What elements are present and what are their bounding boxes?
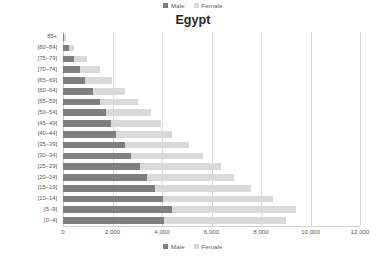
y-axis-label: [50–54] (38, 110, 57, 116)
bar-female (74, 56, 87, 63)
bar-row (63, 56, 360, 63)
male-color-swatch-bottom (163, 244, 168, 249)
legend-label-female-bottom: Female (201, 243, 222, 250)
bar-row (63, 120, 360, 127)
y-axis-label: [10–14] (38, 196, 57, 202)
y-axis-label: [35–39] (38, 142, 57, 148)
bar-female (106, 109, 151, 116)
bar-female (140, 163, 222, 170)
bar-row (63, 142, 360, 149)
x-axis-label: 8,000 (253, 229, 268, 235)
bar-female (155, 185, 252, 192)
bar-male (63, 174, 147, 181)
bar-rows (63, 32, 360, 226)
y-axis-label: [30–34] (38, 153, 57, 159)
y-axis-labels: 85+[80–84][75–79][70–74][65–69][60–64][5… (0, 32, 60, 226)
gridline-12000 (360, 32, 361, 226)
legend-item-female-top: Female (194, 2, 223, 9)
bar-female (125, 142, 189, 149)
legend-item-male-top: Male (163, 2, 184, 9)
chart-title: Egypt (0, 13, 386, 27)
bar-female (64, 34, 65, 41)
bar-row (63, 88, 360, 95)
bar-male (63, 109, 106, 116)
legend-top: Male Female (0, 2, 386, 9)
y-axis-label: [80–84] (38, 45, 57, 51)
bar-row (63, 109, 360, 116)
bar-row (63, 45, 360, 52)
bar-male (63, 120, 111, 127)
bar-male (63, 56, 74, 63)
y-axis-label: [55–59] (38, 99, 57, 105)
bar-row (63, 185, 360, 192)
female-color-swatch-bottom (194, 244, 199, 249)
bar-row (63, 131, 360, 138)
bar-male (63, 88, 93, 95)
bar-female (93, 88, 125, 95)
bar-male (63, 185, 155, 192)
x-axis-label: 10,000 (301, 229, 320, 235)
bar-male (63, 163, 140, 170)
bar-female (172, 206, 296, 213)
y-axis-label: [40–44] (38, 131, 57, 137)
bar-row (63, 196, 360, 203)
bar-male (63, 153, 131, 160)
plot-area (63, 32, 360, 226)
bar-row (63, 77, 360, 84)
bar-row (63, 163, 360, 170)
bar-female (85, 77, 112, 84)
y-axis-label: [20–24] (38, 175, 57, 181)
bar-female (164, 217, 285, 224)
population-pyramid-chart: Male Female Egypt 85+[80–84][75–79][70–7… (0, 0, 386, 257)
bar-row (63, 66, 360, 73)
bar-female (131, 153, 203, 160)
bar-female (100, 99, 138, 106)
y-axis-label: [70–74] (38, 67, 57, 73)
y-axis-label: [75–79] (38, 56, 57, 62)
bar-male (63, 66, 80, 73)
bar-female (147, 174, 234, 181)
y-axis-label: [15–19] (38, 185, 57, 191)
y-axis-label: [25–29] (38, 164, 57, 170)
x-axis-label: 4,000 (154, 229, 169, 235)
bar-female (116, 131, 172, 138)
bar-female (80, 66, 100, 73)
x-axis-label: 6,000 (204, 229, 219, 235)
legend-item-male-bottom: Male (163, 243, 184, 250)
bar-female (163, 196, 273, 203)
y-axis-label: 85+ (47, 34, 57, 40)
bar-row (63, 206, 360, 213)
bar-male (63, 206, 172, 213)
y-axis-label: [60–64] (38, 88, 57, 94)
legend-item-female-bottom: Female (194, 243, 223, 250)
legend-label-male-bottom: Male (171, 243, 185, 250)
bar-male (63, 217, 164, 224)
y-axis-label: [65–69] (38, 78, 57, 84)
female-color-swatch-top (194, 3, 199, 8)
bar-male (63, 99, 100, 106)
bar-female (69, 45, 74, 52)
x-axis-line (63, 226, 360, 227)
bar-row (63, 153, 360, 160)
bar-row (63, 34, 360, 41)
y-axis-label: [5–9] (44, 207, 57, 213)
x-axis-label: 12,000 (351, 229, 370, 235)
x-axis-labels: 02,0004,0006,0008,00010,00012,000 (0, 229, 386, 241)
x-axis-label: 0 (61, 229, 64, 235)
bar-male (63, 142, 125, 149)
y-axis-label: [0–4] (44, 218, 57, 224)
bar-male (63, 77, 85, 84)
bar-row (63, 99, 360, 106)
bar-male (63, 196, 163, 203)
y-axis-label: [45–49] (38, 121, 57, 127)
legend-label-female-top: Female (201, 2, 222, 9)
legend-bottom: Male Female (0, 243, 386, 250)
bar-female (111, 120, 161, 127)
bar-row (63, 217, 360, 224)
bar-row (63, 174, 360, 181)
x-axis-label: 2,000 (105, 229, 120, 235)
male-color-swatch-top (163, 3, 168, 8)
legend-label-male-top: Male (171, 2, 185, 9)
bar-male (63, 131, 116, 138)
